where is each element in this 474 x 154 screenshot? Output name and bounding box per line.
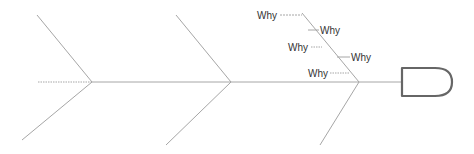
why-label-5: Why: [308, 68, 328, 79]
why-label-4: Why: [351, 52, 371, 63]
bone-2-upper: [176, 15, 231, 82]
bone-3-lower: [320, 82, 359, 145]
fish-head: [402, 68, 452, 96]
bone-1-lower: [22, 82, 92, 140]
why-label-1: Why: [257, 10, 277, 21]
bone-2-lower: [166, 82, 231, 145]
why-label-3: Why: [288, 42, 308, 53]
why-label-2: Why: [320, 25, 340, 36]
fishbone-diagram: Why Why Why Why Why: [0, 0, 474, 154]
bone-1-upper: [37, 15, 92, 82]
